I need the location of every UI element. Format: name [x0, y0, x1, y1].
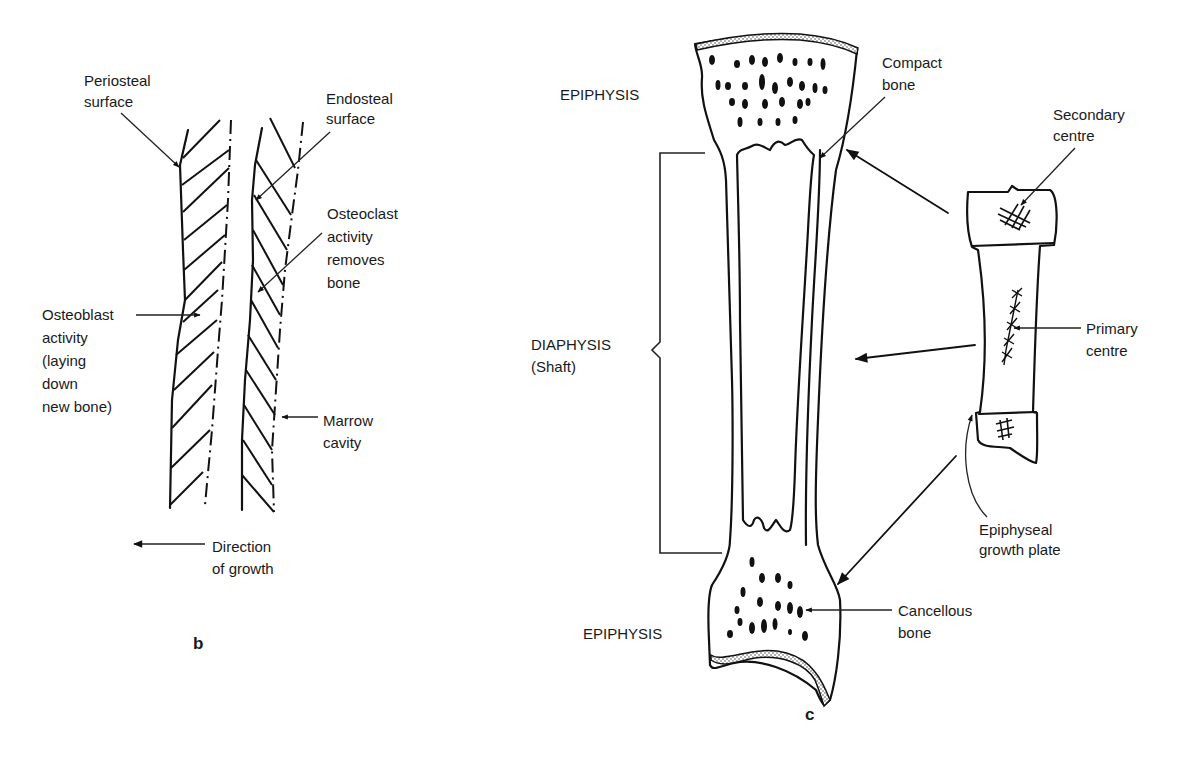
svg-text:Compact: Compact [882, 54, 943, 71]
secondary-centre-crosshatch [998, 204, 1030, 230]
label-cancellous-bone: Cancellous bone [806, 602, 972, 641]
svg-text:Osteoblast: Osteoblast [42, 306, 115, 323]
svg-text:activity: activity [42, 329, 88, 346]
svg-text:(Shaft): (Shaft) [531, 358, 576, 375]
panel-c-long-bone-diagram: EPIPHYSIS EPIPHYSIS DIAPHYSIS (Shaft) Co… [531, 33, 1138, 724]
diaphysis-bracket [652, 153, 722, 553]
arrow-to-diaphysis [856, 345, 975, 359]
svg-text:centre: centre [1053, 127, 1095, 144]
label-direction-of-growth: Direction of growth [134, 538, 274, 577]
label-diaphysis: DIAPHYSIS (Shaft) [531, 336, 611, 375]
svg-text:Epiphyseal: Epiphyseal [979, 521, 1052, 538]
svg-text:new bone): new bone) [42, 398, 112, 415]
svg-text:surface: surface [84, 93, 133, 110]
svg-text:centre: centre [1086, 342, 1128, 359]
arrow-to-bottom-epiphysis [838, 456, 956, 584]
arrow-to-top-epiphysis [847, 150, 948, 213]
label-periosteal-surface: Periosteal surface [84, 72, 179, 167]
bottom-cancellous-bone-spots [727, 557, 808, 641]
primary-centre-column [1002, 288, 1022, 365]
compact-wall-line [806, 150, 820, 545]
svg-text:bone: bone [327, 274, 360, 291]
svg-text:DIAPHYSIS: DIAPHYSIS [531, 336, 611, 353]
panel-b-bone-wall-diagram: Periosteal surface Endosteal surface Ost… [42, 72, 399, 653]
svg-text:Osteoclast: Osteoclast [327, 205, 399, 222]
label-marrow-cavity: Marrow cavity [282, 412, 373, 451]
svg-text:activity: activity [327, 228, 373, 245]
svg-text:down: down [42, 375, 78, 392]
label-compact-bone: Compact bone [820, 54, 943, 158]
panel-c-caption: c [805, 705, 814, 724]
label-primary-centre: Primary centre [1014, 320, 1138, 359]
svg-text:(laying: (laying [42, 352, 86, 369]
svg-text:Periosteal: Periosteal [84, 72, 151, 89]
marrow-cavity-outline [737, 139, 814, 531]
svg-text:surface: surface [326, 110, 375, 127]
bottom-articular-cartilage [711, 651, 830, 706]
svg-text:Marrow: Marrow [323, 412, 373, 429]
top-articular-cartilage [696, 33, 858, 54]
svg-text:Cancellous: Cancellous [898, 602, 972, 619]
label-epiphyseal-growth-plate: Epiphyseal growth plate [966, 415, 1061, 558]
developing-bone-small [967, 186, 1056, 463]
top-cancellous-bone-spots [709, 53, 828, 127]
svg-text:growth plate: growth plate [979, 541, 1061, 558]
svg-text:Endosteal: Endosteal [326, 90, 393, 107]
lower-secondary-centre-crosshatch [996, 418, 1014, 440]
label-epiphysis-top: EPIPHYSIS [560, 86, 639, 103]
bone-growth-figure: Periosteal surface Endosteal surface Ost… [0, 0, 1190, 758]
label-endosteal-surface: Endosteal surface [256, 90, 393, 200]
panel-b-caption: b [193, 634, 203, 653]
svg-text:bone: bone [898, 624, 931, 641]
lower-growth-plate-line [979, 412, 1036, 414]
label-epiphysis-bottom: EPIPHYSIS [583, 625, 662, 642]
svg-text:cavity: cavity [323, 434, 362, 451]
svg-text:Direction: Direction [212, 538, 271, 555]
svg-text:removes: removes [327, 251, 385, 268]
svg-text:Primary: Primary [1086, 320, 1138, 337]
svg-text:bone: bone [882, 76, 915, 93]
svg-text:Secondary: Secondary [1053, 106, 1125, 123]
svg-text:of growth: of growth [212, 560, 274, 577]
